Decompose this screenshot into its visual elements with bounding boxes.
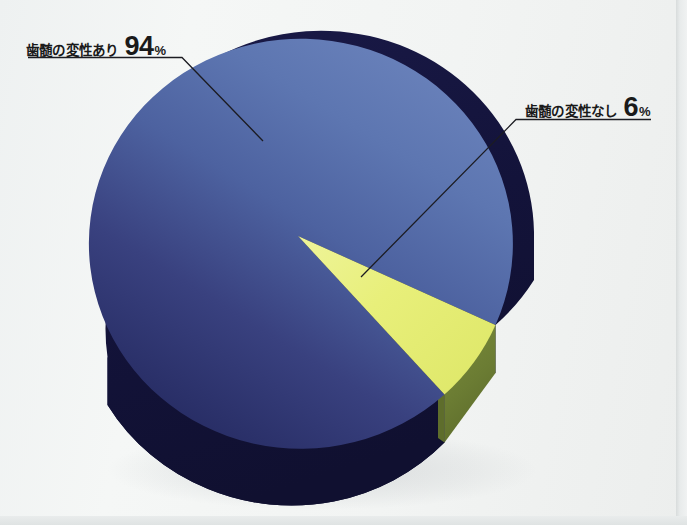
callout-label-minor: 歯髄の変性なし 6 % — [525, 94, 651, 121]
callout-label-major: 歯髄の変性あり 94 % — [26, 33, 166, 60]
callout-minor-category: 歯髄の変性なし — [525, 100, 617, 120]
callout-minor-value: 6 — [623, 94, 638, 121]
scanned-page: 歯髄の変性あり 94 % 歯髄の変性なし 6 % — [0, 0, 687, 525]
callout-minor-unit: % — [639, 104, 651, 119]
pie-top-faces — [89, 39, 513, 449]
callout-major-value: 94 — [124, 33, 153, 60]
pie-chart-graphic — [0, 0, 687, 525]
callout-major-category: 歯髄の変性あり — [26, 39, 118, 59]
callout-major-unit: % — [154, 43, 166, 58]
